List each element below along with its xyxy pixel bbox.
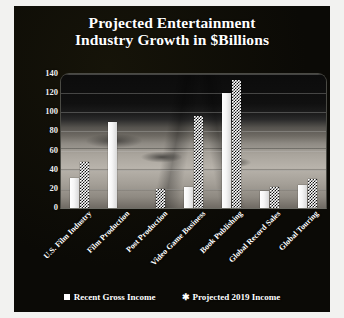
chart-title-line-2: Industry Growth in $Billions: [14, 31, 330, 48]
bar: [194, 116, 203, 208]
bar: [184, 187, 193, 208]
y-axis-tick-label: 140: [14, 68, 58, 78]
y-axis-tick-label: 20: [14, 183, 58, 193]
y-axis-tick-label: 100: [14, 106, 58, 116]
chart-legend: Recent Gross Income ✱ Projected 2019 Inc…: [14, 292, 330, 302]
y-axis-tick-label: 40: [14, 164, 58, 174]
bar-group: [108, 74, 127, 208]
legend-label-recent-gross-income: Recent Gross Income: [74, 292, 156, 302]
bar: [222, 93, 231, 208]
legend-item-recent-gross-income: Recent Gross Income: [64, 292, 156, 302]
bar-series-container: [61, 74, 326, 208]
bar: [108, 122, 117, 208]
chart-panel: Projected Entertainment Industry Growth …: [14, 6, 330, 312]
x-axis-label: U.S. Film Industry: [42, 209, 94, 261]
bar-group: [146, 74, 165, 208]
bar: [80, 162, 89, 208]
bar: [260, 191, 269, 208]
bar-group: [184, 74, 203, 208]
y-axis-tick-label: 80: [14, 125, 58, 135]
chart-title: Projected Entertainment Industry Growth …: [14, 14, 330, 48]
bar: [308, 179, 317, 208]
bar: [156, 189, 165, 208]
x-axis-label: Global Touring: [277, 209, 320, 252]
asterisk-icon: ✱: [182, 294, 189, 301]
bar-group: [298, 74, 317, 208]
bar: [70, 178, 79, 208]
y-axis-tick-label: 0: [14, 202, 58, 212]
bar-group: [70, 74, 89, 208]
legend-label-projected-2019-income: Projected 2019 Income: [193, 292, 281, 302]
x-axis-category-labels: U.S. Film IndustryFilm ProductionPost Pr…: [60, 209, 325, 281]
screenshot-root: Projected Entertainment Industry Growth …: [0, 0, 344, 318]
bar: [232, 80, 241, 208]
bar-group: [222, 74, 241, 208]
y-axis-tick-label: 120: [14, 87, 58, 97]
plot-area: [60, 73, 327, 209]
legend-item-projected-2019-income: ✱ Projected 2019 Income: [182, 292, 281, 302]
bar-group: [260, 74, 279, 208]
bar: [270, 187, 279, 208]
solid-square-icon: [64, 294, 70, 300]
y-axis: 020406080100120140: [14, 73, 58, 207]
y-axis-tick-label: 60: [14, 145, 58, 155]
bar: [298, 185, 307, 208]
chart-title-line-1: Projected Entertainment: [89, 14, 256, 31]
